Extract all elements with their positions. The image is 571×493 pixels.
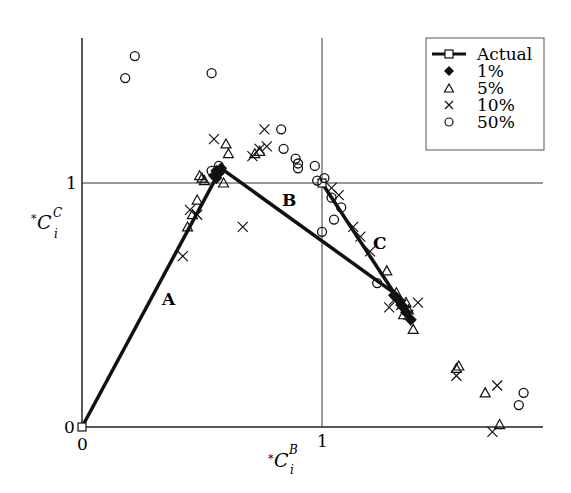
- segment-label-a: A: [161, 289, 176, 309]
- x-axis-label: * C B i: [268, 443, 298, 477]
- svg-text:C: C: [53, 206, 62, 220]
- actual-line: [82, 168, 394, 427]
- data-point-10pct: [259, 124, 269, 134]
- data-point-50pct: [121, 74, 130, 83]
- data-point-10pct: [209, 134, 219, 144]
- data-point-50pct: [330, 215, 339, 224]
- svg-text:i: i: [290, 463, 294, 477]
- svg-text:C: C: [37, 211, 52, 233]
- data-point-50pct: [310, 161, 319, 170]
- open-square-icon: [78, 423, 86, 431]
- data-point-5pct: [480, 388, 490, 397]
- data-point-50pct: [207, 69, 216, 78]
- open-square-icon: [445, 50, 453, 58]
- data-point-5pct: [408, 324, 418, 333]
- segment-label-c: C: [373, 233, 387, 253]
- y-tick-1: 1: [66, 173, 77, 193]
- data-point-50pct: [279, 144, 288, 153]
- x-tick-0: 0: [77, 434, 88, 454]
- data-point-50pct: [277, 125, 286, 134]
- data-point-50pct: [130, 52, 139, 61]
- segment-label-b: B: [282, 190, 296, 210]
- svg-text:i: i: [54, 227, 58, 241]
- data-point-5pct: [221, 139, 231, 148]
- data-point-10pct: [384, 302, 394, 312]
- data-point-10pct: [178, 251, 188, 261]
- svg-text:C: C: [274, 449, 289, 471]
- data-point-50pct: [519, 388, 528, 397]
- svg-text:B: B: [288, 443, 298, 457]
- legend: Actual 1% 5% 10% 50%: [426, 38, 544, 150]
- data-point-10pct: [413, 298, 423, 308]
- scatter-chart: 0 1 0 1 * C B i * C C i A B C Actual 1% …: [0, 0, 571, 493]
- data-point-5pct: [223, 149, 233, 158]
- data-point-10pct: [262, 141, 272, 151]
- x-tick-1: 1: [317, 431, 328, 451]
- data-point-5pct: [192, 195, 202, 204]
- y-tick-0: 0: [64, 417, 75, 437]
- y-axis-label: * C C i: [31, 206, 62, 241]
- svg-text:50%: 50%: [477, 112, 515, 132]
- data-point-10pct: [238, 222, 248, 232]
- data-point-50pct: [514, 401, 523, 410]
- data-point-10pct: [492, 381, 502, 391]
